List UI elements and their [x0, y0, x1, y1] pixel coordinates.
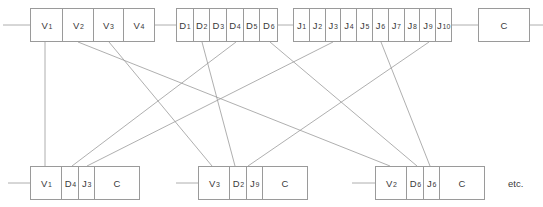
cell-j6[interactable]: J6	[424, 167, 440, 199]
cell-j8[interactable]: J8	[405, 9, 421, 41]
cell-j9[interactable]: J9	[247, 167, 263, 199]
cell-j5[interactable]: J5	[357, 9, 373, 41]
cell-c[interactable]: C	[263, 167, 307, 199]
etc-label: etc.	[508, 178, 523, 189]
merged-record-1[interactable]: V1 D4 J3 C	[30, 166, 140, 200]
cell-d4[interactable]: D4	[62, 167, 79, 199]
cell-d2[interactable]: D2	[194, 9, 211, 41]
d-file-group[interactable]: D1 D2 D3 D4 D5 D6	[176, 8, 278, 42]
cell-d2[interactable]: D2	[230, 167, 247, 199]
cell-j6[interactable]: J6	[373, 9, 389, 41]
cell-d6[interactable]: D6	[260, 9, 277, 41]
cell-j4[interactable]: J4	[341, 9, 357, 41]
cell-j9[interactable]: J9	[420, 9, 436, 41]
cell-d3[interactable]: D3	[210, 9, 227, 41]
j-file-group[interactable]: J1 J2 J3 J4 J5 J6 J7 J8 J9 J10	[293, 8, 452, 42]
cell-d5[interactable]: D5	[244, 9, 261, 41]
c-file-group[interactable]: C	[478, 8, 530, 42]
cell-c[interactable]: C	[95, 167, 139, 199]
cell-j10[interactable]: J10	[436, 9, 451, 41]
cell-v2[interactable]: V2	[376, 167, 407, 199]
cell-v4[interactable]: V4	[124, 9, 154, 41]
diagram-canvas: V1 V2 V3 V4 D1 D2 D3 D4 D5 D6 J1 J2 J3 J…	[0, 0, 543, 207]
cell-j7[interactable]: J7	[389, 9, 405, 41]
cell-j3[interactable]: J3	[326, 9, 342, 41]
cell-c[interactable]: C	[440, 167, 484, 199]
cell-d1[interactable]: D1	[177, 9, 194, 41]
cell-j2[interactable]: J2	[310, 9, 326, 41]
cell-j3[interactable]: J3	[79, 167, 95, 199]
merged-record-3[interactable]: V2 D6 J6 C	[375, 166, 485, 200]
link-d2-to-record2	[202, 42, 235, 166]
link-j6-to-record3	[381, 42, 430, 166]
cell-v3[interactable]: V3	[199, 167, 230, 199]
cell-v1[interactable]: V1	[31, 9, 63, 41]
cell-v3[interactable]: V3	[94, 9, 124, 41]
cell-d4[interactable]: D4	[227, 9, 244, 41]
cell-c[interactable]: C	[479, 9, 529, 41]
cell-j1[interactable]: J1	[294, 9, 310, 41]
cell-d6[interactable]: D6	[407, 167, 424, 199]
cell-v1[interactable]: V1	[31, 167, 62, 199]
link-d4-to-record1	[72, 42, 236, 166]
cell-v2[interactable]: V2	[63, 9, 94, 41]
v-file-group[interactable]: V1 V2 V3 V4	[30, 8, 155, 42]
merged-record-2[interactable]: V3 D2 J9 C	[198, 166, 308, 200]
link-j9-to-record2	[248, 42, 429, 166]
